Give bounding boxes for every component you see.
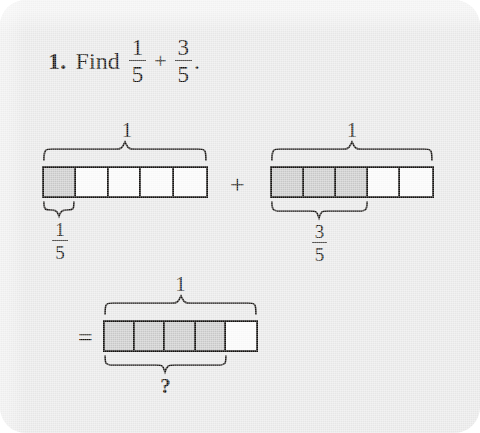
bar-cell bbox=[105, 322, 135, 350]
fraction-denominator: 5 bbox=[312, 242, 328, 264]
bar-cell bbox=[196, 322, 226, 350]
fraction-bar-first-addend bbox=[42, 166, 208, 198]
fraction-one-fifth: 1 5 bbox=[52, 220, 68, 262]
part-brace-first-addend bbox=[42, 201, 78, 219]
part-label-first-addend: 1 5 bbox=[42, 220, 78, 262]
problem-verb: Find bbox=[76, 48, 120, 75]
fraction-numerator: 3 bbox=[312, 222, 328, 242]
bar-cell bbox=[400, 168, 432, 196]
bar-cell bbox=[135, 322, 165, 350]
plus-operator: + bbox=[230, 172, 245, 198]
plus-operator-inline: + bbox=[154, 48, 166, 74]
fraction-numerator: 3 bbox=[175, 36, 193, 60]
bar-cell bbox=[336, 168, 368, 196]
bar-cell bbox=[174, 168, 206, 196]
bar-cell bbox=[368, 168, 400, 196]
whole-brace-first-addend bbox=[42, 140, 208, 162]
worksheet-page: 1. Find 1 5 + 3 5 . 1 bbox=[0, 0, 480, 433]
problem-number: 1. bbox=[48, 48, 67, 75]
fraction-denominator: 5 bbox=[175, 60, 193, 86]
bar-cell bbox=[304, 168, 336, 196]
bar-cell bbox=[109, 168, 141, 196]
equals-operator: = bbox=[78, 325, 93, 351]
fraction-numerator: 1 bbox=[129, 36, 147, 60]
sentence-period: . bbox=[194, 48, 200, 75]
whole-brace-second-addend bbox=[270, 140, 434, 162]
bar-cell bbox=[44, 168, 76, 196]
whole-brace-sum bbox=[103, 294, 258, 316]
fraction-denominator: 5 bbox=[52, 240, 68, 262]
problem-statement: 1. Find 1 5 + 3 5 . bbox=[48, 36, 200, 86]
fraction-bar-sum bbox=[103, 320, 258, 352]
bar-cell bbox=[76, 168, 108, 196]
fraction-denominator: 5 bbox=[129, 60, 147, 86]
bar-cell bbox=[165, 322, 195, 350]
part-label-second-addend: 3 5 bbox=[270, 222, 369, 264]
bar-cell bbox=[141, 168, 173, 196]
bar-cell bbox=[226, 322, 256, 350]
part-label-sum: ? bbox=[103, 374, 228, 399]
fraction-three-fifths: 3 5 bbox=[312, 222, 328, 264]
fraction-bar-second-addend bbox=[270, 166, 434, 198]
header-fraction-one-fifth: 1 5 bbox=[129, 36, 147, 86]
part-brace-sum bbox=[103, 355, 228, 375]
fraction-numerator: 1 bbox=[52, 220, 68, 240]
bar-cell bbox=[272, 168, 304, 196]
part-brace-second-addend bbox=[270, 201, 369, 221]
header-fraction-three-fifths: 3 5 bbox=[175, 36, 193, 86]
